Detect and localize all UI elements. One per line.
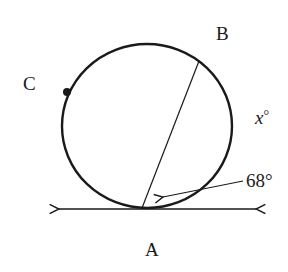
label-a: A: [145, 239, 159, 260]
point-c: [63, 88, 71, 96]
geometry-diagram: B C A x° 68°: [0, 0, 288, 272]
circle: [62, 44, 232, 208]
label-b: B: [216, 23, 229, 44]
angle-pointer-arrow: [163, 181, 243, 197]
label-68-degrees: 68°: [246, 170, 273, 191]
label-x-angle: x°: [254, 107, 269, 128]
label-c: C: [23, 73, 36, 94]
x-degree-symbol: °: [263, 108, 269, 123]
chord-ab: [142, 61, 199, 208]
